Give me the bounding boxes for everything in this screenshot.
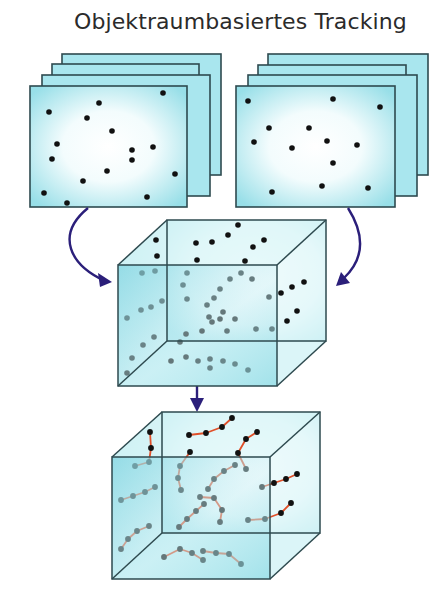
point-dot [245, 98, 251, 104]
point-dot [365, 185, 371, 191]
point-dot [294, 308, 300, 314]
point-dot [225, 232, 231, 238]
point-dot [148, 445, 154, 451]
diagram-canvas [0, 0, 444, 598]
cube-to-tracks-arrow-icon [190, 386, 204, 412]
point-dot [49, 156, 55, 162]
point-dot [330, 96, 336, 102]
point-dot [289, 284, 295, 290]
point-dot [269, 189, 275, 195]
point-dot [306, 125, 312, 131]
point-dot [288, 500, 294, 506]
point-dot [219, 424, 225, 430]
point-dot [283, 476, 289, 482]
point-dot [64, 200, 70, 206]
point-dot [254, 429, 260, 435]
left-image-stack [30, 54, 221, 207]
point-dot [129, 147, 135, 153]
point-dot [54, 141, 60, 147]
point-dot [266, 125, 272, 131]
point-dot [319, 183, 325, 189]
point-dot [301, 279, 307, 285]
point-dot [154, 253, 160, 259]
point-dot [129, 157, 135, 163]
point-dot [377, 104, 383, 110]
point-dot [235, 450, 241, 456]
point-dot [229, 415, 235, 421]
point-dot [153, 237, 159, 243]
point-dot [150, 144, 156, 150]
point-dot [278, 290, 284, 296]
point-dot [289, 145, 295, 151]
point-dot [261, 237, 267, 243]
right-image-stack [236, 54, 428, 207]
point-dot [109, 128, 115, 134]
point-dot [235, 222, 241, 228]
right-to-cube-arrow-icon [336, 208, 360, 286]
point-dot [354, 142, 360, 148]
point-dot [104, 168, 110, 174]
point-dot [284, 318, 290, 324]
point-dot [160, 90, 166, 96]
point-dot [278, 510, 284, 516]
point-dot [187, 449, 193, 455]
image-frame [236, 86, 395, 207]
point-dot [172, 171, 178, 177]
tracked-trajectories-cube [112, 412, 320, 579]
point-dot [271, 480, 277, 486]
point-dot [250, 244, 256, 250]
point-dot [147, 429, 153, 435]
point-dot [186, 432, 192, 438]
point-dot [144, 194, 150, 200]
point-dot [80, 178, 86, 184]
merged-object-space-cube [118, 220, 326, 386]
point-dot [84, 115, 90, 121]
point-dot [251, 139, 257, 145]
point-dot [209, 239, 215, 245]
point-dot [330, 160, 336, 166]
point-dot [41, 190, 47, 196]
point-dot [294, 471, 300, 477]
left-to-cube-arrow-icon [70, 208, 112, 287]
point-dot [194, 257, 200, 263]
image-frame [30, 86, 187, 207]
cubes [112, 220, 326, 579]
point-dot [243, 436, 249, 442]
point-dot [203, 430, 209, 436]
point-dot [324, 138, 330, 144]
point-dot [46, 109, 52, 115]
point-dot [242, 258, 248, 264]
point-dot [193, 240, 199, 246]
point-dot [96, 100, 102, 106]
image-stacks [30, 54, 428, 207]
